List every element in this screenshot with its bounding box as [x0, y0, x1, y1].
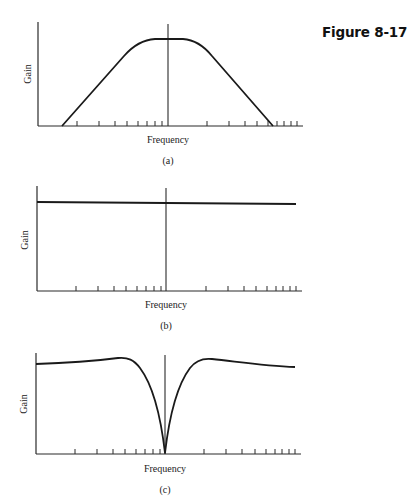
gain-curve: [37, 202, 296, 204]
panel-caption: (a): [162, 155, 173, 167]
y-axis-label: Gain: [19, 230, 30, 249]
x-axis-label: Frequency: [147, 134, 189, 145]
x-ticks: [75, 449, 295, 454]
x-axis-label: Frequency: [144, 463, 186, 474]
panel-caption: (b): [160, 320, 172, 332]
x-axis-label: Frequency: [145, 299, 187, 310]
chart-a: Gain Frequency (a): [22, 22, 303, 167]
figure-plots: Gain Frequency (a) Gain F: [0, 0, 417, 498]
panel-caption: (c): [159, 484, 170, 496]
x-ticks: [76, 286, 296, 291]
y-axis-label: Gain: [18, 394, 29, 413]
y-axis-label: Gain: [22, 64, 33, 83]
x-ticks: [77, 121, 297, 126]
chart-c: Gain Frequency (c): [18, 353, 301, 496]
chart-b: Gain Frequency (b): [19, 186, 302, 332]
